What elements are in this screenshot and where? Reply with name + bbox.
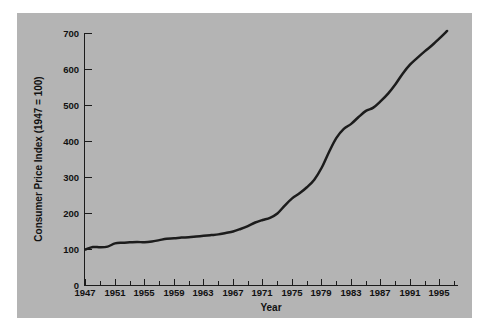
cpi-series-line <box>86 31 448 250</box>
x-axis-title: Year <box>260 302 281 313</box>
x-tick-label-1963: 1963 <box>192 287 213 298</box>
x-tick-label-1987: 1987 <box>369 287 390 298</box>
x-tick-label-1991: 1991 <box>399 287 421 298</box>
figure-container: 700 600 500 400 300 200 100 0 <box>0 0 493 334</box>
x-tick-label-1951: 1951 <box>104 287 126 298</box>
y-tick-label-200: 200 <box>63 208 79 219</box>
x-tick-label-1967: 1967 <box>222 287 243 298</box>
y-tick-labels: 700 600 500 400 300 200 100 0 <box>63 28 79 291</box>
y-axis-title: Consumer Price Index (1947 = 100) <box>33 76 44 241</box>
y-tick-label-300: 300 <box>63 172 79 183</box>
x-tick-label-1955: 1955 <box>133 287 155 298</box>
x-tick-label-1983: 1983 <box>340 287 361 298</box>
x-tick-labels: 1947 1951 1955 1959 1963 1967 1971 1975 … <box>74 287 450 298</box>
y-tick-label-400: 400 <box>63 136 79 147</box>
x-tick-label-1971: 1971 <box>251 287 273 298</box>
x-tick-label-1975: 1975 <box>281 287 303 298</box>
y-tick-label-700: 700 <box>63 28 79 39</box>
axes-group <box>85 33 459 286</box>
x-tick-label-1995: 1995 <box>428 287 450 298</box>
y-tick-label-500: 500 <box>63 100 79 111</box>
y-tick-marks <box>85 34 92 250</box>
x-tick-label-1979: 1979 <box>310 287 331 298</box>
y-tick-label-600: 600 <box>63 64 79 75</box>
cpi-line-chart: 700 600 500 400 300 200 100 0 <box>0 0 493 334</box>
x-tick-marks <box>86 279 455 286</box>
x-tick-label-1947: 1947 <box>74 287 95 298</box>
x-tick-label-1959: 1959 <box>163 287 184 298</box>
y-tick-label-100: 100 <box>63 244 79 255</box>
